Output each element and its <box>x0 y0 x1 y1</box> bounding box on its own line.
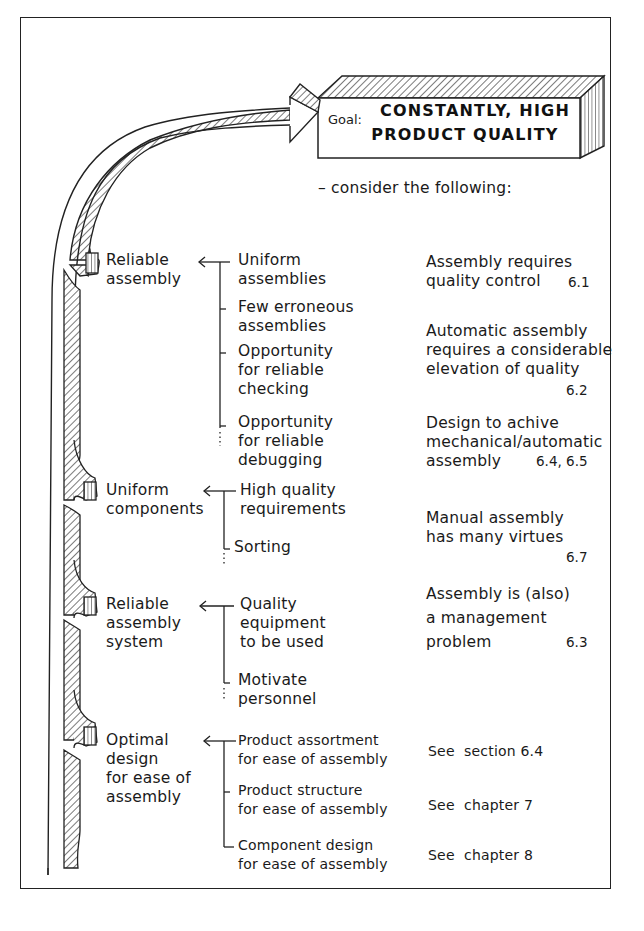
factor-label: system <box>106 633 163 652</box>
note-text: assembly <box>426 452 501 471</box>
branch-lines <box>199 257 236 847</box>
spine-segments <box>48 249 99 875</box>
factor-label: assembly <box>106 270 181 289</box>
note-text: requires a considerable <box>426 341 612 360</box>
note-text: See chapter 8 <box>428 846 533 865</box>
subfactor-label: debugging <box>238 451 322 470</box>
subfactor-label: for reliable <box>238 361 324 380</box>
subfactor-label: for ease of assembly <box>238 855 388 874</box>
subfactor-label: Product structure <box>238 781 363 800</box>
note-text: quality control <box>426 272 541 291</box>
subfactor-label: assemblies <box>238 270 326 289</box>
note-ref: 6.7 <box>566 549 587 565</box>
subfactor-label: for ease of assembly <box>238 750 388 769</box>
intro-text: – consider the following: <box>318 179 512 198</box>
subfactor-label: Component design <box>238 836 373 855</box>
factor-label: assembly <box>106 788 181 807</box>
factor-label: components <box>106 500 204 519</box>
factor-label: Optimal <box>106 731 169 750</box>
note-text: has many virtues <box>426 528 563 547</box>
subfactor-label: for reliable <box>238 432 324 451</box>
note-text: See section 6.4 <box>428 742 543 761</box>
note-text: See chapter 7 <box>428 796 533 815</box>
subfactor-label: requirements <box>240 500 346 519</box>
subfactor-label: Few erroneous <box>238 298 354 317</box>
note-text: Manual assembly <box>426 509 564 528</box>
note-text: Design to achive <box>426 414 559 433</box>
factor-label: design <box>106 750 159 769</box>
factor-label: Reliable <box>106 251 169 270</box>
subfactor-label: for ease of assembly <box>238 800 388 819</box>
note-text: problem <box>426 633 492 652</box>
goal-title-line1: CONSTANTLY, HIGH <box>370 100 580 122</box>
subfactor-label: Motivate <box>238 671 307 690</box>
subfactor-label: Quality <box>240 595 297 614</box>
subfactor-label: to be used <box>240 633 324 652</box>
note-ref: 6.1 <box>568 274 589 290</box>
subfactor-label: Sorting <box>234 538 291 557</box>
goal-title-line2: PRODUCT QUALITY <box>360 124 570 146</box>
subfactor-label: Opportunity <box>238 342 333 361</box>
subfactor-label: High quality <box>240 481 336 500</box>
subfactor-label: Uniform <box>238 251 301 270</box>
goal-label: Goal: <box>328 112 362 127</box>
note-text: Assembly is (also) <box>426 585 570 604</box>
note-text: Assembly requires <box>426 253 572 272</box>
factor-label: Uniform <box>106 481 169 500</box>
note-text: Automatic assembly <box>426 322 588 341</box>
note-ref: 6.2 <box>566 382 587 398</box>
subfactor-label: Opportunity <box>238 413 333 432</box>
subfactor-label: Product assortment <box>238 731 379 750</box>
factor-label: assembly <box>106 614 181 633</box>
note-text: a management <box>426 609 547 628</box>
factor-label: for ease of <box>106 769 191 788</box>
note-text: mechanical/automatic <box>426 433 603 452</box>
subfactor-label: personnel <box>238 690 317 709</box>
note-ref: 6.4, 6.5 <box>536 453 588 469</box>
subfactor-label: assemblies <box>238 317 326 336</box>
note-text: elevation of quality <box>426 360 580 379</box>
subfactor-label: checking <box>238 380 309 399</box>
note-ref: 6.3 <box>566 634 587 650</box>
factor-label: Reliable <box>106 595 169 614</box>
subfactor-label: equipment <box>240 614 326 633</box>
